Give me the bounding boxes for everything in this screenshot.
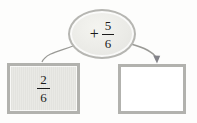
left-curved-connector-icon bbox=[42, 46, 73, 62]
operation-fraction-denominator: 6 bbox=[102, 35, 115, 50]
input-fraction-numerator: 2 bbox=[37, 73, 50, 89]
right-curved-arrow-icon bbox=[131, 44, 157, 58]
arrowhead-icon bbox=[153, 56, 160, 64]
plus-operator: + bbox=[90, 26, 99, 43]
fraction-addition-diagram: + 5 6 2 6 bbox=[0, 0, 197, 123]
operation-fraction: 5 6 bbox=[102, 19, 115, 50]
input-fraction: 2 6 bbox=[37, 73, 50, 104]
operation-bubble: + 5 6 bbox=[68, 9, 136, 59]
answer-box[interactable] bbox=[118, 64, 186, 114]
input-fraction-denominator: 6 bbox=[37, 89, 50, 104]
operation-fraction-numerator: 5 bbox=[102, 19, 115, 35]
input-box: 2 6 bbox=[7, 63, 80, 114]
